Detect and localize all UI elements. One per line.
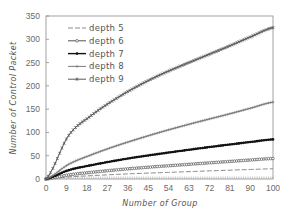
marker-filled-circle xyxy=(231,143,234,146)
marker-filled-circle xyxy=(188,148,191,151)
marker-filled-circle xyxy=(181,149,184,152)
marker-filled-circle xyxy=(170,151,173,154)
marker-filled-circle xyxy=(70,168,73,171)
y-axis-label: Number of Control Packet xyxy=(9,41,18,154)
x-tick-label: 72 xyxy=(205,183,215,193)
marker-filled-circle xyxy=(190,148,193,151)
marker-filled-circle xyxy=(222,144,225,147)
marker-filled-circle xyxy=(147,154,150,157)
legend-item: depth 9 xyxy=(68,74,124,84)
marker-filled-circle xyxy=(115,159,118,162)
marker-filled-circle xyxy=(140,155,143,158)
marker-filled-circle xyxy=(111,160,114,163)
marker-filled-circle xyxy=(201,147,204,150)
marker-filled-circle xyxy=(97,163,100,166)
x-axis-label: Number of Group xyxy=(122,199,197,208)
legend-label: depth 9 xyxy=(89,74,124,84)
marker-filled-circle xyxy=(106,161,109,164)
marker-filled-circle xyxy=(136,156,139,159)
marker-filled-circle xyxy=(67,169,70,172)
marker-filled-circle xyxy=(124,158,127,161)
marker-filled-circle xyxy=(185,149,188,152)
marker-filled-circle xyxy=(206,146,209,149)
marker-filled-circle xyxy=(142,155,145,158)
series-depth-8 xyxy=(45,101,275,181)
marker-filled-circle xyxy=(133,156,136,159)
marker-open-circle xyxy=(272,157,275,160)
x-tick-label: 18 xyxy=(82,183,92,193)
marker-filled-circle xyxy=(224,144,227,147)
marker-filled-circle xyxy=(265,139,268,142)
legend-item: depth 8 xyxy=(68,61,124,71)
marker-filled-circle xyxy=(263,139,266,142)
marker-filled-circle xyxy=(226,143,229,146)
marker-filled-circle xyxy=(215,145,218,148)
marker-filled-circle xyxy=(244,141,247,144)
marker-filled-circle xyxy=(254,140,257,143)
y-tick-label: 200 xyxy=(26,81,40,91)
marker-filled-circle xyxy=(204,146,207,149)
marker-filled-circle xyxy=(160,152,163,155)
marker-filled-circle xyxy=(92,163,95,166)
marker-filled-circle xyxy=(74,167,77,170)
marker-filled-circle xyxy=(167,151,170,154)
legend-label: depth 6 xyxy=(89,36,124,46)
legend-label: depth 5 xyxy=(89,23,124,33)
marker-filled-circle xyxy=(235,142,238,145)
marker-filled-circle xyxy=(120,158,123,161)
marker-filled-circle xyxy=(174,150,177,153)
marker-filled-circle xyxy=(179,150,182,153)
marker-filled-circle xyxy=(104,161,107,164)
legend: depth 5depth 6depth 7depth 8depth 9 xyxy=(68,23,124,84)
marker-filled-circle xyxy=(58,173,61,176)
y-axis-ticks: 050100150200250300350 xyxy=(26,11,49,184)
marker-filled-circle xyxy=(192,148,195,151)
marker-filled-circle xyxy=(122,158,125,161)
marker-filled-circle xyxy=(113,160,116,163)
marker-filled-circle xyxy=(176,150,179,153)
marker-filled-circle xyxy=(251,140,254,143)
marker-filled-circle xyxy=(65,170,68,173)
marker-filled-circle xyxy=(145,154,148,157)
marker-filled-circle xyxy=(86,165,89,168)
marker-filled-circle xyxy=(79,166,82,169)
marker-filled-circle xyxy=(183,149,186,152)
marker-filled-circle xyxy=(272,138,275,141)
marker-filled-circle xyxy=(81,166,84,169)
marker-filled-circle xyxy=(83,165,86,168)
marker-filled-circle xyxy=(99,162,102,165)
x-tick-label: 45 xyxy=(143,183,153,193)
y-tick-label: 0 xyxy=(35,174,40,184)
marker-filled-circle xyxy=(129,157,132,160)
marker-filled-circle xyxy=(213,145,216,148)
marker-filled-circle xyxy=(131,157,134,160)
x-tick-label: 9 xyxy=(64,183,69,193)
marker-filled-circle xyxy=(267,138,270,141)
marker-filled-circle xyxy=(269,138,272,141)
marker-filled-circle xyxy=(199,147,202,150)
marker-open-circle xyxy=(76,40,79,43)
y-tick-label: 50 xyxy=(31,151,41,161)
x-tick-label: 81 xyxy=(225,183,235,193)
marker-filled-circle xyxy=(217,145,220,148)
marker-filled-circle xyxy=(242,142,245,145)
marker-filled-circle xyxy=(151,154,154,157)
y-tick-label: 300 xyxy=(26,34,40,44)
marker-filled-circle xyxy=(197,147,200,150)
marker-filled-circle xyxy=(149,154,152,157)
marker-filled-circle xyxy=(238,142,241,145)
y-tick-label: 250 xyxy=(26,58,40,68)
marker-filled-circle xyxy=(249,141,252,144)
marker-filled-circle xyxy=(76,52,79,55)
marker-filled-circle xyxy=(247,141,250,144)
marker-filled-circle xyxy=(165,152,168,155)
x-tick-label: 90 xyxy=(246,183,256,193)
legend-item: depth 6 xyxy=(68,36,124,46)
marker-filled-circle xyxy=(260,139,263,142)
legend-item: depth 5 xyxy=(68,23,124,33)
marker-filled-circle xyxy=(219,144,222,147)
x-tick-label: 27 xyxy=(103,183,113,193)
marker-filled-circle xyxy=(233,143,236,146)
legend-item: depth 7 xyxy=(68,49,124,59)
marker-filled-circle xyxy=(172,151,175,154)
